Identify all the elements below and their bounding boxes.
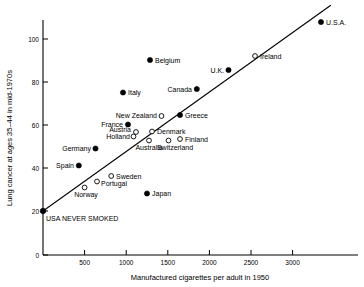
y-axis-title: Lung cancer at ages 35–44 in mid-1970s [5, 70, 14, 206]
point-marker-usa[interactable] [318, 19, 323, 24]
x-tick-label-1500: 1500 [161, 259, 176, 266]
fit-line [43, 5, 331, 211]
point-marker-norway[interactable] [82, 185, 87, 190]
point-label-finland: Finland [185, 136, 208, 143]
point-label-spain: Spain [56, 162, 74, 170]
y-tick-label-0: 0 [35, 252, 39, 259]
y-tick-label-100: 100 [28, 36, 39, 43]
point-marker-greece[interactable] [177, 112, 182, 117]
y-tick-label-20: 20 [32, 208, 40, 215]
x-tick-label-3000: 3000 [285, 259, 300, 266]
point-label-denmark: Denmark [157, 128, 186, 135]
x-axis-title: Manufactured cigarettes per adult in 195… [131, 273, 269, 282]
point-marker-belgium[interactable] [147, 57, 152, 62]
point-label-holland: Holland [106, 133, 130, 140]
point-marker-ireland[interactable] [253, 54, 258, 59]
point-marker-new-zealand[interactable] [159, 114, 164, 119]
x-axis-ticks [85, 250, 293, 255]
point-label-italy: Italy [128, 89, 141, 97]
point-label-uk: U.K. [210, 67, 224, 74]
x-axis-tick-labels: 500 1000 1500 2000 2500 3000 [79, 259, 300, 266]
data-points: USA NEVER SMOKED U.S.A. Ireland U.K. Bel… [40, 19, 346, 223]
point-marker-canada[interactable] [194, 86, 199, 91]
point-label-sweden: Sweden [116, 173, 141, 180]
y-tick-label-60: 60 [32, 122, 40, 129]
y-tick-label-80: 80 [32, 79, 40, 86]
point-label-belgium: Belgium [155, 57, 180, 65]
chart-svg: 0 20 40 60 80 100 500 1000 1500 2000 250… [0, 0, 364, 287]
y-tick-label-40: 40 [32, 165, 40, 172]
x-tick-label-500: 500 [79, 259, 90, 266]
x-tick-label-2000: 2000 [202, 259, 217, 266]
y-axis-tick-labels: 0 20 40 60 80 100 [28, 36, 39, 259]
point-label-ireland: Ireland [260, 53, 282, 60]
point-label-usa: U.S.A. [326, 19, 346, 26]
point-label-canada: Canada [167, 86, 192, 93]
point-marker-spain[interactable] [76, 163, 81, 168]
point-marker-japan[interactable] [144, 191, 149, 196]
point-marker-italy[interactable] [120, 90, 125, 95]
point-marker-holland[interactable] [131, 134, 136, 139]
point-marker-switzerland[interactable] [166, 138, 171, 143]
point-label-new-zealand: New Zealand [116, 112, 157, 119]
point-marker-germany[interactable] [93, 146, 98, 151]
point-marker-denmark[interactable] [150, 129, 155, 134]
y-axis-ticks [43, 39, 48, 255]
point-label-austria: Austria [109, 126, 131, 133]
point-marker-portugal[interactable] [95, 179, 100, 184]
point-label-norway: Norway [74, 191, 98, 199]
point-marker-australia[interactable] [147, 138, 152, 143]
point-label-greece: Greece [185, 112, 208, 119]
point-marker-sweden[interactable] [109, 174, 114, 179]
point-label-japan: Japan [152, 190, 171, 198]
point-label-switzerland: Switzerland [157, 144, 193, 151]
point-label-germany: Germany [62, 145, 91, 153]
point-label-portugal: Portugal [101, 180, 128, 188]
point-marker-finland[interactable] [178, 137, 183, 142]
point-marker-usa-never-smoked[interactable] [40, 208, 46, 214]
point-marker-uk[interactable] [226, 67, 231, 72]
x-tick-label-1000: 1000 [119, 259, 134, 266]
scatter-chart-figure: 0 20 40 60 80 100 500 1000 1500 2000 250… [0, 0, 364, 287]
point-label-usa-never-smoked: USA NEVER SMOKED [46, 215, 118, 222]
x-tick-label-2500: 2500 [244, 259, 259, 266]
point-marker-austria[interactable] [134, 130, 139, 135]
